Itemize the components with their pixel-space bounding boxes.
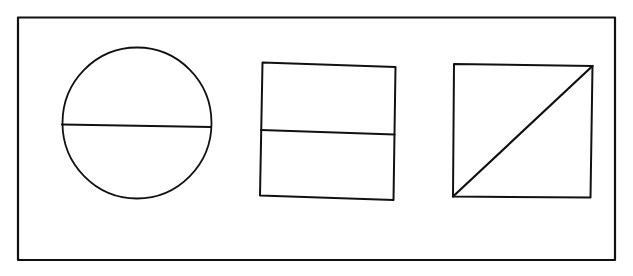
circle-shape [63,48,212,199]
square-divider-line [261,130,395,135]
figure-circle-halved [62,48,212,199]
circle-divider-line [62,125,211,128]
figure-square-halved [260,63,396,201]
diagram-canvas [0,0,633,276]
figure-square-diagonal [453,64,593,198]
square-diagonal-line [453,66,593,197]
